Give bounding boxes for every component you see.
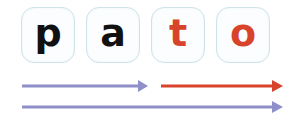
arrow-to [161, 80, 283, 92]
arrow-whole-word [22, 101, 283, 113]
arrow-syllable-pa-icon [0, 0, 298, 121]
arrow-pa [22, 80, 148, 92]
